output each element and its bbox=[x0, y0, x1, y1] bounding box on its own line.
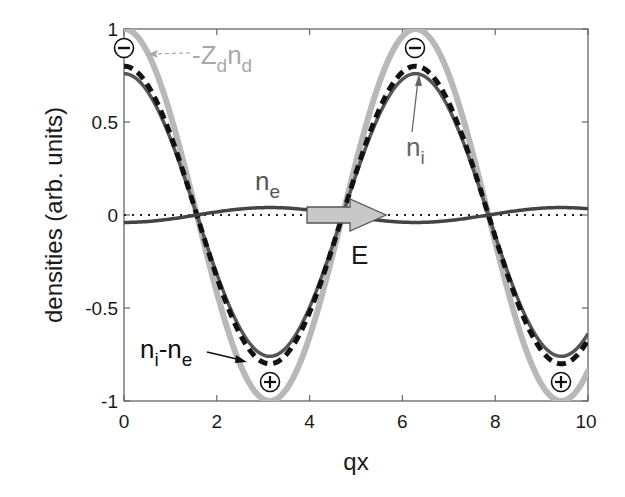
y-axis-label: densities (arb. units) bbox=[40, 107, 67, 323]
minus-charge-icon bbox=[115, 39, 134, 58]
svg-text:ni: ni bbox=[406, 132, 425, 168]
svg-text:-Zdnd: -Zdnd bbox=[192, 40, 252, 76]
e-field-label: E bbox=[351, 240, 368, 270]
minus-charge-icon bbox=[406, 39, 425, 58]
y-tick-0: 0 bbox=[107, 205, 118, 226]
zd-nd-annotation: -Zdnd bbox=[148, 40, 252, 76]
x-tick-0: 0 bbox=[119, 411, 130, 432]
x-tick-8: 8 bbox=[490, 411, 501, 432]
density-chart: 0 2 4 6 8 10 1 0.5 0 -0.5 -1 qx densitie… bbox=[0, 0, 625, 497]
ni-annotation: ni bbox=[406, 74, 425, 168]
ne-label: ne bbox=[255, 166, 280, 202]
x-tick-2: 2 bbox=[212, 411, 223, 432]
y-tick-0.5: 0.5 bbox=[92, 112, 118, 133]
x-tick-labels: 0 2 4 6 8 10 bbox=[119, 411, 597, 432]
y-tick-1: 1 bbox=[107, 19, 118, 40]
x-tick-10: 10 bbox=[575, 411, 596, 432]
x-tick-4: 4 bbox=[304, 411, 315, 432]
svg-text:ni-ne: ni-ne bbox=[140, 334, 192, 370]
y-tick-labels: 1 0.5 0 -0.5 -1 bbox=[85, 19, 118, 412]
y-tick-neg0.5: -0.5 bbox=[85, 298, 118, 319]
x-tick-6: 6 bbox=[397, 411, 408, 432]
x-axis-label: qx bbox=[343, 448, 368, 475]
plus-charge-icon bbox=[552, 373, 571, 392]
plus-charge-icon bbox=[261, 373, 280, 392]
svg-text:ne: ne bbox=[255, 166, 280, 202]
y-tick-neg1: -1 bbox=[101, 391, 118, 412]
